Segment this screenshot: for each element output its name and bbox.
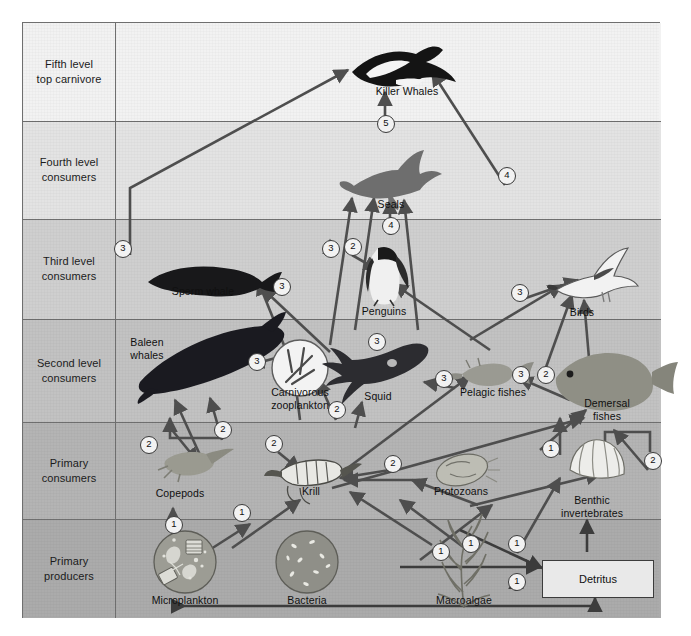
organism-label-macroalgae: Macroalgae [404, 594, 524, 607]
trophic-marker-1-24: 1 [508, 535, 526, 553]
band-label-fifth: Fifth level top carnivore [23, 23, 116, 121]
band-divider [23, 121, 661, 122]
band-divider [23, 219, 661, 220]
detritus-label: Detritus [579, 573, 617, 585]
food-web-diagram: Fifth level top carnivoreFourth level co… [0, 0, 691, 636]
trophic-marker-3-0: 3 [114, 240, 132, 258]
organism-label-sperm-whale: Sperm whale [143, 285, 263, 298]
trophic-marker-1-25: 1 [508, 573, 526, 591]
trophic-marker-1-19: 1 [542, 440, 560, 458]
trophic-marker-2-14: 2 [644, 452, 662, 470]
trophic-marker-4-3: 4 [382, 217, 400, 235]
band-label-primary_producers: Primary producers [23, 519, 116, 618]
trophic-marker-2-5: 2 [344, 238, 362, 256]
trophic-marker-3-8: 3 [368, 333, 386, 351]
band-label-third: Third level consumers [23, 219, 116, 319]
trophic-band-third: Third level consumers [23, 219, 661, 319]
diagram-frame: Fifth level top carnivoreFourth level co… [22, 22, 660, 618]
trophic-marker-3-9: 3 [248, 353, 266, 371]
organism-label-microplankton: Microplankton [125, 594, 245, 607]
trophic-marker-1-22: 1 [432, 543, 450, 561]
trophic-marker-1-23: 1 [462, 535, 480, 553]
trophic-marker-3-7: 3 [511, 284, 529, 302]
organism-label-benthic-invertebrates: Benthic invertebrates [532, 494, 652, 520]
trophic-marker-5-1: 5 [377, 115, 395, 133]
detritus-box: Detritus [542, 560, 654, 598]
trophic-marker-2-12: 2 [537, 366, 555, 384]
organism-label-pelagic-fishes: Pelagic fishes [433, 386, 553, 399]
trophic-marker-3-4: 3 [322, 240, 340, 258]
organism-label-squid: Squid [318, 390, 438, 403]
organism-label-penguins: Penguins [324, 305, 444, 318]
trophic-marker-2-17: 2 [265, 435, 283, 453]
organism-label-demersal-fishes: Demersal fishes [547, 397, 667, 423]
trophic-band-fifth: Fifth level top carnivore [23, 23, 661, 121]
organism-label-bacteria: Bacteria [247, 594, 367, 607]
organism-label-seals: Seals [331, 198, 451, 211]
band-label-fourth: Fourth level consumers [23, 121, 116, 219]
organism-label-killer-whales: Killer Whales [347, 85, 467, 98]
band-label-second: Second level consumers [23, 319, 116, 422]
organism-label-birds: Birds [522, 306, 642, 319]
trophic-marker-1-20: 1 [233, 504, 251, 522]
band-label-primary_consumers: Primary consumers [23, 422, 116, 519]
organism-label-baleen-whales: Baleen whales [87, 336, 207, 362]
trophic-marker-3-11: 3 [512, 366, 530, 384]
trophic-marker-2-15: 2 [140, 436, 158, 454]
trophic-marker-2-18: 2 [384, 455, 402, 473]
trophic-marker-1-21: 1 [165, 516, 183, 534]
trophic-marker-3-6: 3 [273, 278, 291, 296]
trophic-marker-2-16: 2 [214, 421, 232, 439]
organism-label-protozoans: Protozoans [401, 485, 521, 498]
organism-label-copepods: Copepods [120, 487, 240, 500]
band-divider [23, 319, 661, 320]
organism-label-krill: Krill [251, 485, 371, 498]
trophic-marker-4-2: 4 [498, 167, 516, 185]
